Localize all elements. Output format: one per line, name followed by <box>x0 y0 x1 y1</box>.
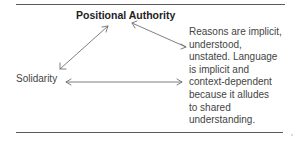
bottom-rule <box>16 132 283 133</box>
double-arrow-authority-description <box>132 21 186 49</box>
stray-mark <box>291 134 293 136</box>
double-arrow-solidarity-description <box>66 79 182 85</box>
double-arrow-solidarity-authority <box>60 26 108 69</box>
arrows-layer <box>0 0 297 141</box>
